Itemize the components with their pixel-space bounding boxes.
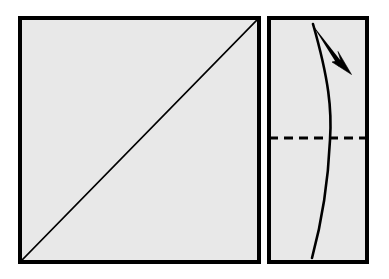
- origami-diagram: Paper folding diagram Two-panel origami …: [0, 0, 389, 279]
- left-panel-group: [20, 18, 259, 262]
- diagram-canvas: [0, 0, 389, 279]
- folded-rectangle-outline: [269, 18, 367, 262]
- right-panel-group: [269, 18, 367, 262]
